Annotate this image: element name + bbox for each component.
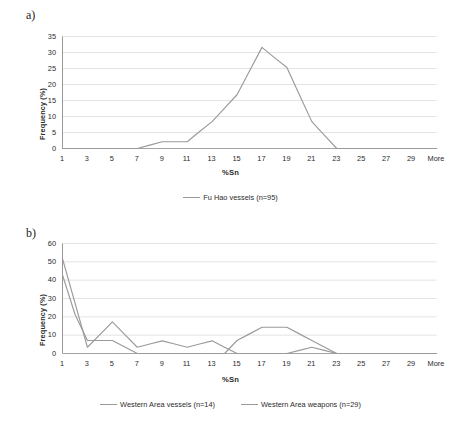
legend-item[interactable]: Western Area vessels (n=14) bbox=[100, 400, 215, 409]
chart-a-legend: Fu Hao vessels (n=95) bbox=[0, 193, 461, 202]
legend-line-swatch bbox=[100, 404, 117, 405]
chart-b: Frequency (%) 0102030405060 135791113151… bbox=[0, 218, 461, 438]
chart-a-y-tick: 25 bbox=[34, 64, 56, 73]
chart-a: Frequency (%) 05101520253035 13579111315… bbox=[0, 0, 461, 218]
chart-a-y-tick: 20 bbox=[34, 80, 56, 89]
chart-b-y-tick: 20 bbox=[34, 312, 56, 321]
chart-b-x-axis-label: %Sn bbox=[0, 375, 461, 384]
chart-b-x-tick: More bbox=[421, 359, 451, 368]
chart-a-x-axis-label: %Sn bbox=[0, 168, 461, 177]
panel-a: a) Frequency (%) 05101520253035 13579111… bbox=[0, 0, 461, 218]
chart-a-y-tick: 0 bbox=[34, 144, 56, 153]
chart-a-y-tick: 5 bbox=[34, 128, 56, 137]
legend-line-swatch bbox=[241, 404, 258, 405]
chart-a-plot-area bbox=[62, 36, 438, 150]
chart-b-y-tick: 10 bbox=[34, 330, 56, 339]
chart-b-y-tick: 60 bbox=[34, 239, 56, 248]
chart-a-y-tick: 15 bbox=[34, 96, 56, 105]
chart-a-y-tick: 10 bbox=[34, 112, 56, 121]
chart-a-y-tick: 35 bbox=[34, 32, 56, 41]
chart-b-y-tick: 50 bbox=[34, 257, 56, 266]
legend-item[interactable]: Fu Hao vessels (n=95) bbox=[183, 193, 278, 202]
chart-b-y-tick: 40 bbox=[34, 275, 56, 284]
data-line bbox=[63, 275, 437, 354]
legend-label: Western Area weapons (n=29) bbox=[261, 400, 361, 409]
chart-b-legend: Western Area vessels (n=14)Western Area … bbox=[0, 400, 461, 409]
legend-label: Fu Hao vessels (n=95) bbox=[203, 193, 278, 202]
chart-a-x-tick: More bbox=[421, 154, 451, 163]
data-line bbox=[63, 259, 437, 354]
chart-a-y-tick: 30 bbox=[34, 48, 56, 57]
legend-item[interactable]: Western Area weapons (n=29) bbox=[241, 400, 361, 409]
chart-b-y-tick: 0 bbox=[34, 349, 56, 358]
legend-line-swatch bbox=[183, 197, 200, 198]
chart-b-y-tick: 30 bbox=[34, 294, 56, 303]
legend-label: Western Area vessels (n=14) bbox=[120, 400, 215, 409]
data-line bbox=[63, 47, 437, 148]
chart-b-plot-area bbox=[62, 243, 438, 355]
panel-b: b) Frequency (%) 0102030405060 135791113… bbox=[0, 218, 461, 438]
